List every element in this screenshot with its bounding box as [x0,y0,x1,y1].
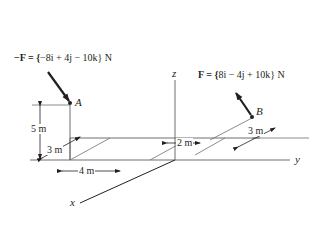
dim-3m-left-label: 3 m [46,145,63,155]
dim-3m-right-label: 3 m [247,126,264,136]
dim-2m-label: 2 m [176,138,193,148]
neg-F-expression: −8i + 4j − 10k [40,52,97,63]
point-A-label: A [75,97,82,108]
force-neg-F-arrow [48,72,69,101]
z-axis-label: z [172,68,176,79]
force-F-arrow [236,93,251,115]
neg-F-equation: −F = {−8i + 4j − 10k} N [14,53,112,63]
point-A [68,101,72,105]
base-edge-diag-4 [210,118,252,140]
base-edge-diag-1 [70,138,110,160]
F-suffix: } N [270,69,285,80]
point-B-label: B [256,106,263,117]
dim-4m-label: 4 m [78,166,95,176]
F-prefix: F = { [198,69,218,80]
y-axis-label: y [295,154,300,165]
x-axis-label: x [70,197,75,208]
base-edge-diag-3 [195,138,225,155]
point-B [250,115,254,119]
neg-F-prefix: −F = { [14,52,40,63]
F-equation: F = {8i − 4j + 10k} N [198,70,285,80]
dim-5m-label: 5 m [30,124,47,134]
neg-F-suffix: } N [98,52,113,63]
F-expression: 8i − 4j + 10k [218,69,270,80]
